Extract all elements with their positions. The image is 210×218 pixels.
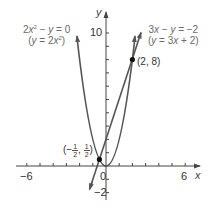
point-label-2-8: (2, 8) — [137, 56, 160, 67]
tick-label-x-neg6: −6 — [20, 170, 33, 182]
line-equation-line1: 3x − y = −2 — [148, 24, 199, 35]
intersection-point-a — [97, 157, 102, 162]
parabola-equation-line1: 2x2 − y = 0 — [23, 24, 70, 35]
tick-label-y-neg2: −2 — [94, 186, 107, 198]
parabola-equation-label: 2x2 − y = 0 (y = 2x2) — [23, 24, 70, 46]
tick-label-x-0: 0 — [100, 170, 106, 182]
y-axis — [106, 12, 109, 200]
x-axis-label: x — [195, 170, 201, 181]
intersection-point-b — [130, 57, 135, 62]
tick-label-x-6: 6 — [181, 170, 187, 182]
point-label-neg-half-half: (−12, 12) — [63, 143, 93, 158]
y-axis-label: y — [96, 7, 102, 18]
tick-label-y-10: 10 — [90, 26, 102, 38]
line-equation-line2: (y = 3x + 2) — [148, 35, 199, 46]
line-equation-label: 3x − y = −2 (y = 3x + 2) — [148, 24, 199, 46]
parabola-equation-line2: (y = 2x2) — [23, 35, 70, 46]
